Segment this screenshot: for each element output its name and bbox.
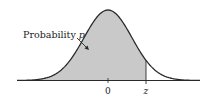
shaded-probability-region: [17, 10, 146, 81]
probability-label: Probability p: [23, 29, 85, 40]
z-tick-label: z: [143, 86, 149, 96]
normal-curve-diagram: Probability p 0 z: [0, 0, 211, 100]
center-tick-label: 0: [105, 86, 111, 96]
